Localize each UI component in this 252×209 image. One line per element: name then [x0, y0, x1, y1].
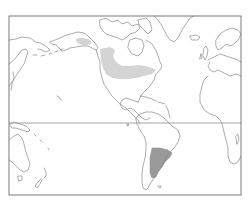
coast-kamchatka	[9, 49, 28, 86]
coast-greenland	[154, 16, 194, 42]
coast-hispaniola	[158, 102, 165, 104]
range-argentina-uruguay	[150, 148, 172, 178]
coast-scandinavia	[216, 28, 241, 50]
coast-australia	[9, 134, 30, 172]
coast-british-isles	[200, 46, 208, 60]
coast-new-zealand	[35, 168, 46, 188]
coast-lesser-antilles	[166, 106, 170, 118]
coast-hudson-bay	[128, 38, 144, 56]
coast-hawaii	[57, 96, 62, 100]
coast-baffin	[138, 18, 152, 34]
coast-africa	[200, 76, 241, 164]
coast-canada-arctic	[100, 18, 140, 40]
distribution-map	[0, 0, 252, 209]
coast-europe	[208, 54, 241, 76]
coast-iceland	[190, 35, 200, 40]
coast-aleutians	[33, 49, 63, 56]
coast-madagascar	[236, 134, 239, 144]
coast-cuba	[140, 96, 156, 101]
coast-new-guinea	[10, 122, 30, 132]
coast-falklands	[158, 186, 161, 188]
coast-galapagos	[127, 124, 129, 126]
distribution-ranges	[76, 38, 156, 79]
coast-tasmania	[18, 176, 22, 181]
map-svg	[0, 0, 252, 209]
range-western-canada	[100, 47, 156, 79]
range-alaska-yukon	[76, 38, 92, 45]
coastlines	[9, 16, 241, 190]
coast-siberia	[9, 37, 50, 52]
coast-pacific-islands	[34, 134, 49, 150]
